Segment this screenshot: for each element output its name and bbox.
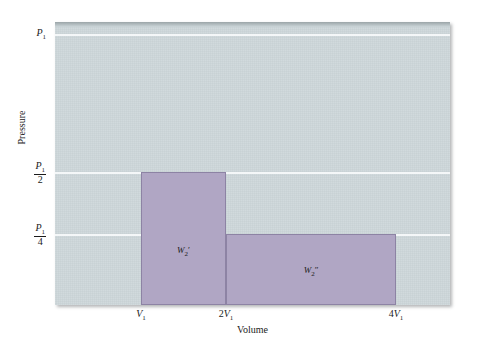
work-label-w2-double-prime: W2″ [227,265,395,278]
y-tick-p1-label: P1 [36,27,46,38]
x-tick-v1-label: V1 [136,308,146,319]
fraction-denominator: 4 [34,237,46,248]
work-prime: ′ [188,245,190,255]
work-symbol: W [177,245,185,255]
gridline-p1-over-2 [55,172,450,174]
x-tick-2v1-label: 2V1 [219,308,234,319]
x-tick-4v1-label: 4V1 [389,308,404,319]
fraction-denominator: 2 [34,175,46,186]
y-tick-p1-over-4: P1 4 [0,223,46,248]
x-tick-4v1: 4V1 [366,308,426,322]
work-label-w2-prime: W2′ [142,245,225,258]
work-prime: ″ [315,265,319,275]
x-tick-v1: V1 [111,308,171,322]
panel-top-shadow [55,22,450,27]
x-axis-title: Volume [55,324,450,335]
pv-work-diagram: Pressure P1 P1 2 P1 4 W2′ [0,0,478,347]
fraction-numerator: P1 [34,223,46,237]
y-tick-p1: P1 [0,27,46,41]
y-tick-p1-over-2: P1 2 [0,161,46,186]
x-tick-2v1: 2V1 [196,308,256,322]
work-rect-w2-prime: W2′ [141,172,226,305]
plot-area: W2′ W2″ [55,22,450,305]
y-tick-p1-over-2-fraction: P1 2 [34,161,46,186]
y-tick-p1-over-4-fraction: P1 4 [34,223,46,248]
work-symbol: W [304,265,312,275]
work-rect-w2-double-prime: W2″ [226,234,396,305]
y-axis-title: Pressure [16,88,27,168]
fraction-numerator: P1 [34,161,46,175]
gridline-p1 [55,34,450,36]
